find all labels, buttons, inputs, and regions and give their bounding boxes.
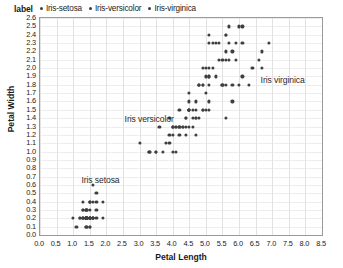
data-point[interactable]	[85, 225, 88, 228]
data-point[interactable]	[267, 41, 270, 44]
data-point[interactable]	[184, 117, 187, 120]
data-point[interactable]	[101, 200, 104, 203]
data-point[interactable]	[241, 25, 244, 28]
data-point[interactable]	[241, 75, 244, 78]
data-point[interactable]	[204, 92, 207, 95]
data-point[interactable]	[164, 142, 167, 145]
data-point[interactable]	[237, 83, 240, 86]
data-point[interactable]	[174, 125, 177, 128]
y-axis-tick-label: 2.3	[2, 38, 36, 47]
y-axis-tick-label: 0.1	[2, 221, 36, 230]
data-point[interactable]	[191, 117, 194, 120]
data-point[interactable]	[257, 58, 260, 61]
data-point[interactable]	[75, 225, 78, 228]
data-point[interactable]	[214, 75, 217, 78]
data-point[interactable]	[101, 217, 104, 220]
data-point[interactable]	[208, 100, 211, 103]
data-point[interactable]	[208, 83, 211, 86]
data-point[interactable]	[228, 25, 231, 28]
gridline-horizontal	[40, 160, 322, 161]
data-point[interactable]	[208, 108, 211, 111]
y-axis-tick-label: 0.0	[2, 230, 36, 239]
data-point[interactable]	[221, 83, 224, 86]
data-point[interactable]	[224, 58, 227, 61]
data-point[interactable]	[247, 83, 250, 86]
data-point[interactable]	[201, 66, 204, 69]
y-axis-tick-label: 0.6	[2, 179, 36, 188]
data-point[interactable]	[91, 217, 94, 220]
data-point[interactable]	[224, 33, 227, 36]
data-point[interactable]	[95, 200, 98, 203]
data-point[interactable]	[234, 41, 237, 44]
data-point[interactable]	[208, 75, 211, 78]
data-point[interactable]	[194, 100, 197, 103]
data-point[interactable]	[211, 41, 214, 44]
y-axis-tick-label: 2.2	[2, 46, 36, 55]
x-axis-tick-label: 3.0	[134, 239, 144, 248]
data-point[interactable]	[204, 66, 207, 69]
data-point[interactable]	[198, 83, 201, 86]
x-axis-tick-label: 7.5	[283, 239, 293, 248]
data-point[interactable]	[184, 125, 187, 128]
data-point[interactable]	[158, 125, 161, 128]
data-point[interactable]	[261, 66, 264, 69]
data-point[interactable]	[194, 108, 197, 111]
data-point[interactable]	[231, 50, 234, 53]
legend-item-iris-versicolor[interactable]: Iris-versicolor	[89, 4, 141, 13]
data-point[interactable]	[161, 150, 164, 153]
data-point[interactable]	[85, 217, 88, 220]
data-point[interactable]	[204, 75, 207, 78]
y-axis-tick-label: 0.7	[2, 171, 36, 180]
data-point[interactable]	[231, 83, 234, 86]
data-point[interactable]	[218, 41, 221, 44]
data-point[interactable]	[251, 66, 254, 69]
data-point[interactable]	[95, 208, 98, 211]
data-point[interactable]	[188, 92, 191, 95]
data-point[interactable]	[191, 125, 194, 128]
data-point[interactable]	[211, 66, 214, 69]
data-point[interactable]	[95, 192, 98, 195]
data-point[interactable]	[224, 50, 227, 53]
data-point[interactable]	[85, 208, 88, 211]
data-point[interactable]	[171, 133, 174, 136]
legend-item-iris-virginica[interactable]: Iris-virginica	[148, 4, 196, 13]
data-point[interactable]	[234, 58, 237, 61]
data-point[interactable]	[95, 217, 98, 220]
data-point[interactable]	[88, 225, 91, 228]
data-point[interactable]	[261, 50, 264, 53]
chart-legend: label Iris-setosa Iris-versicolor Iris-v…	[14, 2, 203, 15]
data-point[interactable]	[184, 133, 187, 136]
data-point[interactable]	[178, 108, 181, 111]
data-point[interactable]	[218, 58, 221, 61]
data-point[interactable]	[224, 117, 227, 120]
x-axis-tick-label: 4.5	[183, 239, 193, 248]
data-point[interactable]	[88, 200, 91, 203]
data-point[interactable]	[194, 133, 197, 136]
data-point[interactable]	[155, 150, 158, 153]
data-point[interactable]	[231, 100, 234, 103]
data-point[interactable]	[181, 125, 184, 128]
y-axis-tick-label: 2.1	[2, 54, 36, 63]
data-point[interactable]	[208, 33, 211, 36]
data-point[interactable]	[72, 217, 75, 220]
data-point[interactable]	[82, 200, 85, 203]
data-point[interactable]	[138, 142, 141, 145]
data-point[interactable]	[178, 133, 181, 136]
data-point[interactable]	[198, 117, 201, 120]
data-point[interactable]	[174, 150, 177, 153]
data-point[interactable]	[91, 200, 94, 203]
data-point[interactable]	[88, 217, 91, 220]
data-point[interactable]	[148, 150, 151, 153]
data-point[interactable]	[228, 58, 231, 61]
data-point[interactable]	[188, 100, 191, 103]
data-point[interactable]	[241, 41, 244, 44]
y-axis-title: Petal Width	[6, 74, 16, 144]
data-point[interactable]	[188, 108, 191, 111]
data-point[interactable]	[224, 83, 227, 86]
data-point[interactable]	[168, 142, 171, 145]
data-point[interactable]	[201, 83, 204, 86]
gridline-horizontal	[40, 227, 322, 228]
legend-item-iris-setosa[interactable]: Iris-setosa	[40, 4, 82, 13]
data-point[interactable]	[88, 208, 91, 211]
data-point[interactable]	[228, 41, 231, 44]
